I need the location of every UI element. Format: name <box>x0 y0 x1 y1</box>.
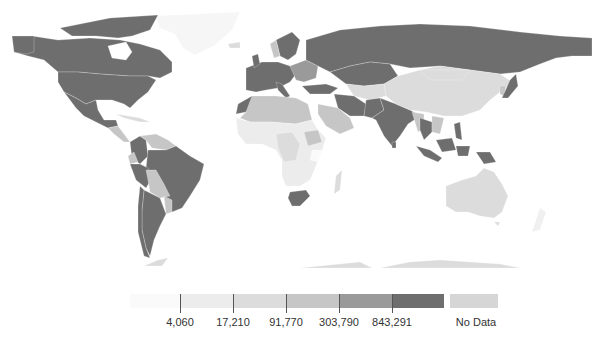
legend-label-threshold: 303,790 <box>319 316 359 328</box>
region-vietnam[interactable] <box>432 116 444 134</box>
region-north-africa[interactable] <box>240 96 312 124</box>
legend-label-no-data: No Data <box>456 316 496 328</box>
region-antarctica[interactable] <box>144 258 520 268</box>
region-papua-new-guinea[interactable] <box>476 152 496 164</box>
region-indonesia[interactable] <box>416 138 470 162</box>
legend-label-threshold: 91,770 <box>269 316 303 328</box>
legend-swatch-bin2 <box>233 294 286 308</box>
region-somalia[interactable] <box>310 150 322 162</box>
region-madagascar[interactable] <box>334 170 342 194</box>
region-south-africa[interactable] <box>288 190 310 206</box>
region-turkey[interactable] <box>302 84 338 94</box>
legend-swatch-bin1 <box>180 294 233 308</box>
region-sri-lanka[interactable] <box>392 142 396 148</box>
region-greenland[interactable] <box>155 12 240 55</box>
region-philippines[interactable] <box>454 122 462 140</box>
legend-tick <box>392 294 393 313</box>
legend-tick <box>286 294 287 313</box>
legend-swatch-bin0 <box>130 294 180 308</box>
legend-tick <box>233 294 234 313</box>
region-western-europe[interactable] <box>246 62 296 92</box>
legend-swatch-bin3 <box>286 294 339 308</box>
region-canada[interactable] <box>14 36 172 78</box>
region-canada-islands[interactable] <box>60 15 158 38</box>
region-central-america[interactable] <box>108 126 130 142</box>
legend-tick <box>180 294 181 313</box>
legend-tick <box>339 294 340 313</box>
region-caribbean[interactable] <box>116 114 150 122</box>
world-map <box>0 0 605 280</box>
region-alaska[interactable] <box>12 36 34 54</box>
legend-label-threshold: 843,291 <box>372 316 412 328</box>
region-new-zealand[interactable] <box>532 208 546 232</box>
legend-label-threshold: 4,060 <box>166 316 194 328</box>
legend-label-threshold: 17,210 <box>216 316 250 328</box>
legend-swatch-bin5 <box>392 294 444 308</box>
map-legend: 4,060 17,210 91,770 303,790 843,291 No D… <box>130 294 530 334</box>
legend-swatch-no-data <box>450 294 498 308</box>
legend-swatch-bin4 <box>339 294 392 308</box>
region-thailand[interactable] <box>420 118 432 140</box>
region-iceland[interactable] <box>228 42 240 48</box>
region-tasmania[interactable] <box>494 222 500 226</box>
region-australia[interactable] <box>446 168 508 218</box>
